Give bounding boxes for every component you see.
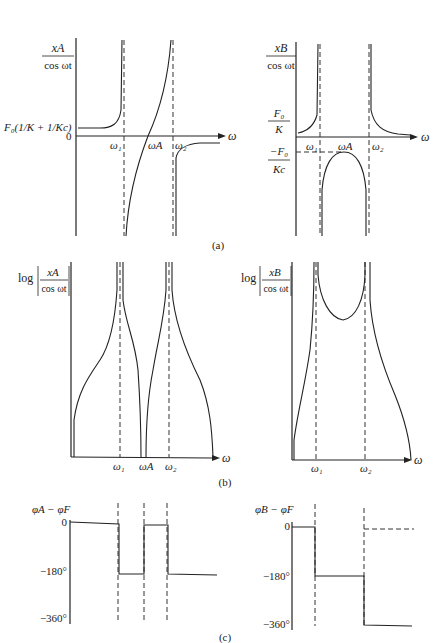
x-axis-arrow-icon xyxy=(410,134,418,140)
ylabel-num: xA xyxy=(51,41,65,55)
x-axis-label: ω xyxy=(414,453,422,467)
panel-label-b: (b) xyxy=(219,476,232,489)
ylabel: φA − φF xyxy=(32,503,71,515)
panel-label-c: (c) xyxy=(219,631,232,643)
curve-branch-3 xyxy=(371,44,410,135)
pos-level-num: F₀ xyxy=(273,107,285,119)
tick-w1: ω₁ xyxy=(311,462,323,474)
phase-step-curve xyxy=(70,522,217,575)
curve-branch-2 xyxy=(322,152,366,236)
tick-wA: ωA xyxy=(338,140,353,152)
curve-fall-to-wA xyxy=(123,262,141,457)
curve-rise-w1 xyxy=(74,262,117,457)
panel-a-right: xB cos ωt ω F₀ K −F₀ Kc ω₁ ωA ω₂ xyxy=(266,41,429,236)
tick-wA: ωA xyxy=(148,139,163,151)
vibration-response-figure: xA cos ωt ω F₀(1/K + 1/Kc) 0 ω₁ ωA ω₂ xB… xyxy=(0,0,437,643)
panel-b-left: log xA cos ωt ω ω₁ ωA ω₂ xyxy=(18,262,230,472)
x-axis-arrow-icon xyxy=(218,133,226,139)
ylabel-num: xB xyxy=(274,41,288,55)
x-axis-label: ω xyxy=(228,129,236,143)
tick-w2: ω₂ xyxy=(360,462,372,474)
phase-step-curve xyxy=(292,527,412,626)
tick-w1: ω₁ xyxy=(110,139,122,151)
ylabel-den: cos ωt xyxy=(44,59,72,71)
ylabel-prefix: log xyxy=(241,271,256,285)
ytick-180: −180° xyxy=(40,565,67,577)
tick-w2: ω₂ xyxy=(372,140,384,152)
tick-w1: ω₁ xyxy=(306,140,318,152)
x-axis xyxy=(71,457,212,458)
ylabel-den: cos ωt xyxy=(41,283,66,294)
curve-branch-1 xyxy=(298,44,318,133)
curve-rise-w1 xyxy=(294,262,314,460)
ytick-0: 0 xyxy=(62,516,68,528)
curve-branch-3 xyxy=(176,143,220,236)
neg-level-num: −F₀ xyxy=(270,145,288,157)
ylabel-den: cos ωt xyxy=(263,283,288,294)
tick-w1: ω₁ xyxy=(113,460,125,472)
ytick-360: −360° xyxy=(40,612,67,624)
panel-c-left: φA − φF 0 −180° −360° xyxy=(32,503,217,624)
ylabel-num: xA xyxy=(46,266,59,278)
tick-wA: ωA xyxy=(139,460,154,472)
ylabel-den: cos ωt xyxy=(267,59,295,71)
curve-valley xyxy=(318,262,365,320)
tick-w2: ω₂ xyxy=(165,460,177,472)
ylabel-prefix: log xyxy=(18,271,33,285)
zero-label: 0 xyxy=(66,130,72,142)
level-label: F₀(1/K + 1/Kc) xyxy=(3,121,72,134)
ylabel: φB − φF xyxy=(255,503,294,515)
curve-branch-1 xyxy=(78,40,122,128)
curve-rise-w2 xyxy=(146,262,166,457)
panel-a-left: xA cos ωt ω F₀(1/K + 1/Kc) 0 ω₁ ωA ω₂ xyxy=(3,38,236,236)
x-axis-label: ω xyxy=(421,130,429,144)
ytick-180: −180° xyxy=(263,570,290,582)
x-axis-label: ω xyxy=(222,451,230,465)
neg-level-den: Kc xyxy=(272,163,285,175)
curve-fall-after-w2 xyxy=(172,262,213,457)
curve-fall-after-w2 xyxy=(370,262,411,460)
tick-w2: ω₂ xyxy=(175,139,187,151)
curve-branch-2 xyxy=(126,40,171,236)
panel-c-right: φB − φF 0 −180° −360° xyxy=(255,503,414,630)
ytick-360: −360° xyxy=(263,618,290,630)
ylabel-num: xB xyxy=(268,266,281,278)
panel-b-right: log xB cos ωt ω ω₁ ω₂ xyxy=(241,262,422,474)
ytick-0: 0 xyxy=(285,520,291,532)
panel-label-a: (a) xyxy=(212,239,225,252)
pos-level-den: K xyxy=(274,123,283,135)
